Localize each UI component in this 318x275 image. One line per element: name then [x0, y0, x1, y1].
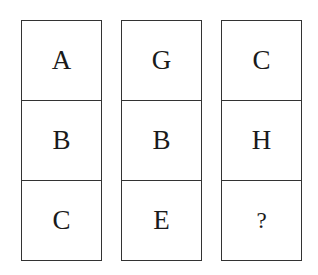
- column-3: C H ?: [221, 20, 302, 261]
- cell-2-2: B: [122, 100, 201, 180]
- cell-2-1: G: [122, 21, 201, 100]
- cell-3-2: H: [222, 100, 301, 180]
- cell-1-2: B: [22, 100, 101, 180]
- cell-2-3: E: [122, 180, 201, 260]
- column-2: G B E: [121, 20, 202, 261]
- column-1: A B C: [21, 20, 102, 261]
- cell-3-1: C: [222, 21, 301, 100]
- cell-1-1: A: [22, 21, 101, 100]
- letter-grid-puzzle: A B C G B E C H ?: [0, 0, 318, 275]
- unknown-answer-cell: ?: [222, 180, 301, 260]
- cell-1-3: C: [22, 180, 101, 260]
